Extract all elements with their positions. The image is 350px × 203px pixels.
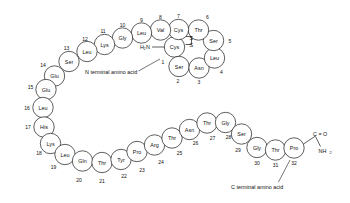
residue-number-label: 4: [220, 69, 223, 75]
residue-number-label: 10: [120, 22, 126, 28]
residue-number-label: 16: [24, 105, 30, 111]
residue-code-label: Cys: [170, 44, 180, 50]
residue-code-label: Arg: [150, 142, 158, 148]
residue-code-label: Lys: [100, 42, 108, 48]
c-terminal-carbonyl-label: C = O: [313, 131, 327, 137]
residue-code-label: Glu: [50, 73, 58, 79]
residue-code-label: Pro: [133, 149, 141, 155]
n-terminal-group: H 2 N: [140, 44, 164, 51]
residue-number-label: 12: [82, 36, 88, 42]
residue-code-label: Thr: [203, 120, 211, 126]
residue-number-label: 8: [159, 14, 162, 20]
residue-code-label: Gly: [253, 145, 261, 151]
residue-code-label: Thr: [194, 27, 202, 33]
residue-code-label: Ser: [209, 38, 218, 44]
disulfide-sulfur-top-label: S: [190, 35, 194, 41]
c-terminal-amide-subscript: 2: [330, 151, 332, 155]
residue-9-leu: Leu: [131, 23, 151, 43]
residue-30-gly: Gly: [247, 137, 267, 157]
peptide-diagram-canvas: CysSerAsnLeuSerThrCysValLeuGlyLysLeuSerG…: [0, 0, 350, 203]
n-terminal-annotation-label: N terminal amino acid: [85, 69, 137, 75]
residue-number-label: 2: [177, 78, 180, 84]
residue-number-label: 21: [99, 178, 105, 184]
residue-code-label: Leu: [137, 30, 146, 36]
residue-2-ser: Ser: [169, 56, 189, 76]
residue-layer: CysSerAsnLeuSerThrCysValLeuGlyLysLeuSerG…: [33, 19, 304, 172]
residue-number-label: 3: [198, 79, 201, 85]
residue-code-label: Thr: [168, 135, 176, 141]
disulfide-sulfur-bottom-label: S: [190, 42, 194, 48]
residue-number-label: 26: [193, 140, 199, 146]
residue-21-thr: Thr: [92, 152, 112, 172]
residue-16-leu: Leu: [33, 97, 53, 117]
residue-code-label: Leu: [61, 152, 70, 158]
residue-number-label: 32: [291, 160, 297, 166]
residue-8-val: Val: [150, 20, 170, 40]
residue-code-label: Val: [157, 27, 164, 33]
residue-20-gln: Gln: [72, 151, 92, 171]
residue-31-thr: Thr: [265, 140, 285, 160]
residue-code-label: Gly: [118, 35, 126, 41]
residue-number-label: 6: [206, 14, 209, 20]
residue-code-label: Asn: [185, 127, 194, 133]
residue-number-label: 14: [40, 62, 46, 68]
residue-code-label: Ser: [175, 64, 184, 70]
residue-number-label: 25: [177, 150, 183, 156]
residue-27-thr: Thr: [197, 113, 217, 133]
residue-number-label: 30: [254, 160, 260, 166]
residue-number-label: 11: [100, 28, 105, 34]
residue-number-label: 31: [273, 162, 279, 168]
c-terminal-annotation-label: C terminal amino acid: [231, 184, 283, 190]
residue-code-label: Ser: [237, 131, 246, 137]
residue-number-label: 7: [177, 13, 180, 19]
residue-code-label: Thr: [271, 147, 279, 153]
residue-code-label: Thr: [98, 160, 106, 166]
residue-code-label: Ser: [65, 59, 74, 65]
residue-number-label: 29: [235, 147, 241, 153]
residue-number-label: 19: [51, 164, 57, 170]
residue-32-pro: Pro: [284, 138, 304, 158]
residue-number-label: 9: [140, 17, 143, 23]
disulfide-bridge: S S: [186, 35, 194, 49]
residue-number-label: 22: [121, 173, 127, 179]
residue-number-label: 23: [139, 167, 145, 173]
n-terminal-annotation: N terminal amino acid: [85, 59, 160, 75]
residue-code-label: Lys: [46, 141, 54, 147]
residue-number-label: 13: [64, 45, 70, 51]
peptide-structure-diagram: CysSerAsnLeuSerThrCysValLeuGlyLysLeuSerG…: [0, 0, 350, 203]
residue-7-cys: Cys: [168, 19, 188, 39]
residue-number-label: 17: [25, 124, 31, 130]
residue-code-label: Cys: [174, 27, 184, 33]
c-terminal-annotation: C terminal amino acid: [231, 160, 290, 190]
c-terminal-group: C = O NH 2: [304, 131, 332, 155]
residue-code-label: Gln: [78, 158, 86, 164]
residue-code-label: Leu: [39, 105, 48, 111]
residue-15-glu: Glu: [36, 79, 56, 99]
residue-code-label: Tyr: [117, 157, 125, 163]
residue-number-label: 20: [76, 177, 82, 183]
residue-code-label: Leu: [83, 49, 92, 55]
residue-code-label: Pro: [290, 145, 298, 151]
residue-number-label: 15: [28, 84, 34, 90]
residue-code-label: Asn: [194, 65, 203, 71]
residue-number-label: 28: [226, 134, 232, 140]
residue-number-label: 24: [158, 159, 164, 165]
c-terminal-amide-label: NH: [319, 148, 327, 154]
residue-1-cys: Cys: [164, 37, 184, 57]
residue-number-label: 18: [36, 150, 42, 156]
residue-12-leu: Leu: [77, 41, 97, 61]
residue-number-label: 1: [162, 59, 165, 65]
residue-code-label: Gly: [221, 120, 229, 126]
residue-code-label: Leu: [210, 55, 219, 61]
residue-code-label: His: [40, 124, 48, 130]
residue-number-label: 27: [210, 135, 216, 141]
n-terminal-n-label: N: [146, 44, 150, 50]
residue-10-gly: Gly: [112, 28, 132, 48]
residue-code-label: Glu: [42, 87, 50, 93]
residue-number-label: 5: [229, 38, 232, 44]
